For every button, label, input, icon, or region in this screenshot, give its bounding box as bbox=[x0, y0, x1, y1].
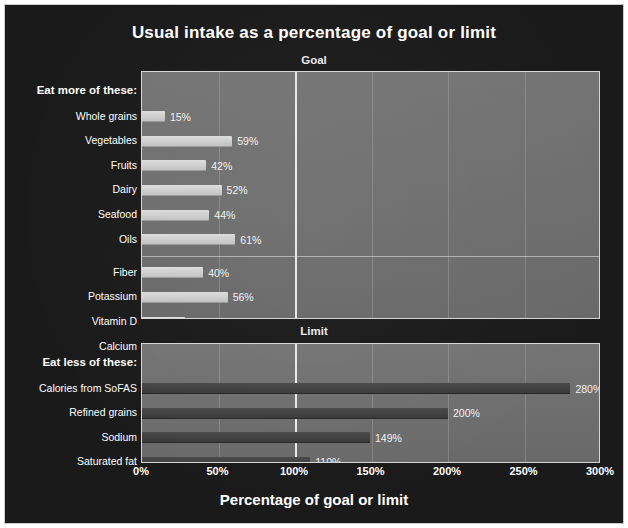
panel-caption-goal: Goal bbox=[5, 54, 623, 66]
bar bbox=[142, 432, 370, 443]
bar-value-label: 61% bbox=[240, 235, 261, 246]
category-label: Vegetables bbox=[7, 135, 137, 146]
bar bbox=[142, 136, 232, 147]
x-tick-label: 200% bbox=[433, 465, 461, 477]
bar bbox=[142, 317, 185, 320]
bar bbox=[142, 408, 448, 419]
bar bbox=[142, 383, 570, 394]
category-label: Sodium bbox=[7, 432, 137, 443]
category-label: Saturated fat bbox=[7, 456, 137, 467]
plot-area-goal: 15%59%42%52%44%61%40%56%28%75% bbox=[141, 71, 600, 319]
page-title: Usual intake as a percentage of goal or … bbox=[5, 23, 623, 43]
bar-value-label: 280% bbox=[575, 384, 600, 395]
bar-value-label: 59% bbox=[237, 136, 258, 147]
x-tick-label: 250% bbox=[509, 465, 537, 477]
category-label: Fiber bbox=[7, 267, 137, 278]
category-label: Potassium bbox=[7, 291, 137, 302]
bar bbox=[142, 185, 222, 196]
bar-value-label: 28% bbox=[190, 317, 211, 319]
category-label: Calories from SoFAS bbox=[7, 383, 137, 394]
plot-background-limit bbox=[142, 344, 599, 462]
bar bbox=[142, 111, 165, 122]
poster-frame: Usual intake as a percentage of goal or … bbox=[4, 4, 624, 524]
plot-area-limit: 280%200%149%110% bbox=[141, 343, 600, 463]
gridline bbox=[372, 72, 373, 318]
gridline bbox=[525, 72, 526, 318]
x-axis: 0%50%100%150%200%250%300% bbox=[141, 465, 600, 481]
bar bbox=[142, 160, 206, 171]
reference-line-100-percent bbox=[295, 344, 297, 462]
bar bbox=[142, 457, 310, 463]
category-label: Fruits bbox=[7, 160, 137, 171]
bar-value-label: 52% bbox=[227, 185, 248, 196]
bar-value-label: 15% bbox=[170, 112, 191, 123]
x-tick-label: 300% bbox=[586, 465, 614, 477]
x-axis-title: Percentage of goal or limit bbox=[5, 491, 623, 508]
bar-value-label: 149% bbox=[375, 433, 402, 444]
gridline bbox=[448, 72, 449, 318]
bar-value-label: 40% bbox=[208, 268, 229, 279]
chart-poster: Usual intake as a percentage of goal or … bbox=[0, 0, 628, 528]
bar-value-label: 44% bbox=[214, 210, 235, 221]
category-label: Dairy bbox=[7, 184, 137, 195]
x-tick-label: 150% bbox=[356, 465, 384, 477]
x-tick-label: 50% bbox=[206, 465, 228, 477]
category-label: Vitamin D bbox=[7, 316, 137, 327]
x-tick-label: 100% bbox=[280, 465, 308, 477]
group-heading-goal: Eat more of these: bbox=[7, 85, 137, 97]
category-labels-goal: Eat more of these:Whole grainsVegetables… bbox=[5, 71, 137, 319]
reference-line-100-percent bbox=[295, 72, 297, 318]
category-label: Oils bbox=[7, 234, 137, 245]
gridline bbox=[448, 344, 449, 462]
bar bbox=[142, 292, 228, 303]
bar bbox=[142, 234, 235, 245]
gridline bbox=[219, 344, 220, 462]
bar-value-label: 42% bbox=[211, 161, 232, 172]
category-label: Whole grains bbox=[7, 111, 137, 122]
bar bbox=[142, 210, 209, 221]
bar-value-label: 110% bbox=[315, 457, 341, 463]
group-heading-limit: Eat less of these: bbox=[7, 357, 137, 369]
gridline bbox=[525, 344, 526, 462]
group-separator bbox=[142, 256, 599, 257]
bar-value-label: 56% bbox=[233, 292, 254, 303]
category-labels-limit: Eat less of these:Calories from SoFASRef… bbox=[5, 343, 137, 463]
bar-value-label: 200% bbox=[453, 408, 480, 419]
bar bbox=[142, 267, 203, 278]
x-tick-label: 0% bbox=[133, 465, 149, 477]
category-label: Refined grains bbox=[7, 407, 137, 418]
gridline bbox=[372, 344, 373, 462]
category-label: Seafood bbox=[7, 209, 137, 220]
